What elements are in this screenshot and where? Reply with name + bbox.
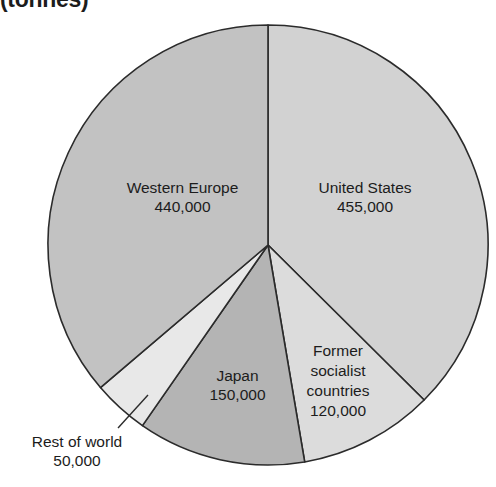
slice-label-value: 50,000 — [2, 451, 152, 470]
slice-label-value: 150,000 — [185, 385, 290, 404]
slice-label-value: 440,000 — [100, 197, 265, 216]
slice-label-value: 455,000 — [300, 197, 430, 216]
pie-chart: (tonnes) United States 455,000 Western E… — [0, 0, 496, 487]
slice-label-former-socialist-countries: Former socialist countries 120,000 — [292, 341, 384, 421]
slice-label-western-europe: Western Europe 440,000 — [100, 178, 265, 216]
slice-label-name: Former socialist countries — [292, 341, 384, 401]
pie-svg — [0, 0, 496, 487]
slice-label-rest-of-world: Rest of world 50,000 — [2, 432, 152, 470]
slice-label-japan: Japan 150,000 — [185, 366, 290, 404]
slice-label-value: 120,000 — [292, 401, 384, 421]
slice-label-united-states: United States 455,000 — [300, 178, 430, 216]
slice-label-name: Rest of world — [2, 432, 152, 451]
slice-label-name: United States — [300, 178, 430, 197]
slice-label-name: Western Europe — [100, 178, 265, 197]
slice-label-name: Japan — [185, 366, 290, 385]
